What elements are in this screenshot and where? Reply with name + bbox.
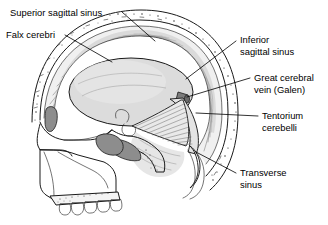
label-transverse-sinus-line2: sinus [240,179,262,190]
label-great-cerebral-vein-line2: vein (Galen) [254,84,305,95]
frontal-sinus-structure [45,107,57,132]
skull-sagittal-illustration: Superior sagittal sinus Falx cerebri Inf… [0,0,328,225]
anatomy-figure: Superior sagittal sinus Falx cerebri Inf… [0,0,328,225]
maxillary-sinus [96,134,123,155]
tooth [84,202,96,213]
label-falx-cerebri: Falx cerebri [6,29,55,40]
label-tentorium-cerebelli-line2: cerebelli [262,122,297,133]
leader-tentorium-cerebelli [196,113,258,116]
label-great-cerebral-vein-line1: Great cerebral [254,72,314,83]
label-inferior-sagittal-sinus-line1: Inferior [240,34,269,45]
facial-skeleton-group [37,124,123,215]
frontal-sinus [45,107,57,132]
tooth [97,201,109,212]
tooth [71,203,83,215]
label-tentorium-cerebelli-line1: Tentorium [262,110,303,121]
label-transverse-sinus-line1: Transverse [240,167,287,178]
zygomatic-buttress [58,152,108,188]
label-inferior-sagittal-sinus-line2: sagittal sinus [240,46,295,57]
maxilla-ridge [44,152,54,196]
tooth [59,204,71,215]
label-superior-sagittal-sinus: Superior sagittal sinus [10,7,103,18]
sinus-wall-inner [183,150,195,198]
tooth [110,200,122,211]
